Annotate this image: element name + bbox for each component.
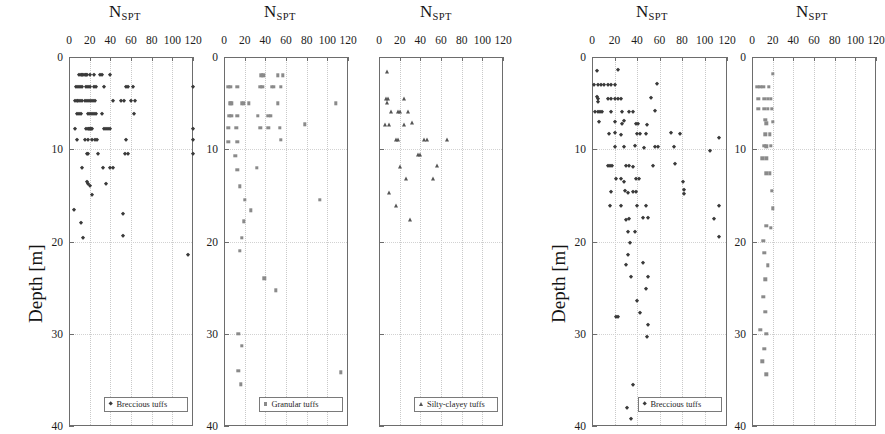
axis-title-nspt: NSPT [240, 2, 320, 22]
plot-legend: Breccious tuffs [104, 397, 188, 412]
data-point [756, 107, 759, 110]
data-point [256, 114, 259, 117]
data-point [236, 140, 239, 143]
y-tick [592, 57, 597, 58]
data-point [237, 369, 240, 372]
y-gridline [70, 334, 192, 335]
data-point [765, 373, 768, 376]
y-tick [752, 57, 757, 58]
data-point [756, 97, 759, 100]
y-tick-label: 0 [564, 51, 586, 63]
data-point [765, 122, 768, 125]
x-tick [327, 57, 328, 61]
data-point [766, 107, 769, 110]
axis-title-subscript: SPT [276, 11, 296, 22]
data-point [239, 383, 242, 386]
data-point [236, 85, 239, 88]
x-tick-label: 100 [164, 34, 181, 46]
data-point [445, 138, 449, 142]
data-point [406, 110, 410, 114]
x-tick [110, 57, 111, 61]
y-tick-label: 40 [41, 420, 63, 432]
axis-title-subscript: SPT [648, 11, 668, 22]
data-point [763, 251, 766, 254]
x-tick-label: 0 [749, 34, 755, 46]
data-point [226, 126, 229, 129]
data-point [318, 198, 321, 201]
data-point [762, 239, 765, 242]
data-point [770, 189, 773, 192]
data-point [261, 85, 264, 88]
plot-legend: Breccious tuffs [638, 397, 722, 412]
data-point [269, 114, 272, 117]
x-tick [637, 57, 638, 61]
x-tick [503, 57, 504, 61]
data-point [404, 176, 408, 180]
y-tick-label: 10 [564, 143, 586, 155]
x-tick-label: 0 [221, 34, 227, 46]
y-gridline [753, 149, 875, 150]
x-tick-label: 40 [631, 34, 643, 46]
x-tick [462, 57, 463, 61]
y-tick [379, 334, 384, 335]
y-gridline [225, 149, 347, 150]
x-tick-label: 80 [829, 34, 841, 46]
data-point [240, 344, 243, 347]
x-tick-label: 60 [125, 34, 137, 46]
y-gridline [593, 242, 726, 243]
legend-marker-icon [419, 402, 423, 406]
data-point [267, 126, 270, 129]
x-tick-label: 80 [301, 34, 313, 46]
data-point [226, 140, 229, 143]
y-tick [224, 149, 229, 150]
x-tick-label: 120 [339, 34, 356, 46]
data-point [279, 138, 282, 141]
x-tick-label: 100 [696, 34, 713, 46]
x-tick [400, 57, 401, 61]
y-tick [752, 242, 757, 243]
x-tick [876, 57, 877, 61]
data-point [431, 176, 435, 180]
data-point [769, 144, 772, 147]
x-tick [793, 57, 794, 61]
data-point [759, 328, 762, 331]
y-tick [752, 426, 757, 427]
x-tick-label: 100 [474, 34, 491, 46]
x-tick-label: 20 [239, 34, 251, 46]
y-gridline [593, 334, 726, 335]
data-point [278, 126, 281, 129]
data-point [425, 138, 429, 142]
x-tick [193, 57, 194, 61]
data-point [435, 163, 439, 167]
x-tick-label: 0 [589, 34, 595, 46]
y-tick-label: 0 [196, 51, 218, 63]
x-tick [307, 57, 308, 61]
plot-legend: Granular tuffs [259, 397, 343, 412]
x-tick-label: 40 [260, 34, 272, 46]
data-point [235, 126, 238, 129]
x-tick [482, 57, 483, 61]
y-tick-label: 30 [564, 328, 586, 340]
y-gridline [70, 242, 192, 243]
data-point [768, 133, 771, 136]
x-tick-label: 20 [394, 34, 406, 46]
data-point [767, 85, 770, 88]
data-point [387, 190, 391, 194]
data-point [276, 101, 279, 104]
y-gridline [380, 242, 502, 243]
axis-title-nspt: NSPT [85, 2, 165, 22]
y-tick-label: 30 [196, 328, 218, 340]
data-point [258, 126, 261, 129]
x-tick [348, 57, 349, 61]
y-tick [224, 426, 229, 427]
x-tick [773, 57, 774, 61]
y-tick-label: 20 [724, 236, 746, 248]
y-tick [224, 57, 229, 58]
data-point [262, 74, 265, 77]
y-gridline [70, 149, 192, 150]
x-tick-label: 100 [847, 34, 864, 46]
x-tick-label: 20 [609, 34, 621, 46]
x-tick [131, 57, 132, 61]
x-tick [286, 57, 287, 61]
data-point [408, 218, 412, 222]
